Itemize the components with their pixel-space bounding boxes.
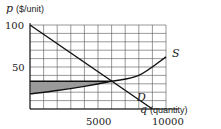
y-tick-100: 100 [5,20,24,31]
y-tick-50: 50 [12,62,25,73]
demand-curve-label: D [136,91,146,104]
x-tick-10000: 10000 [152,116,184,127]
supply-demand-chart: p($/unit) 100 50 5000 10000 q(quantity) … [0,0,221,129]
supply-curve-label: S [172,47,180,60]
x-tick-5000: 5000 [86,116,111,127]
y-axis-label: p($/unit) [6,2,44,15]
axes [30,23,178,109]
